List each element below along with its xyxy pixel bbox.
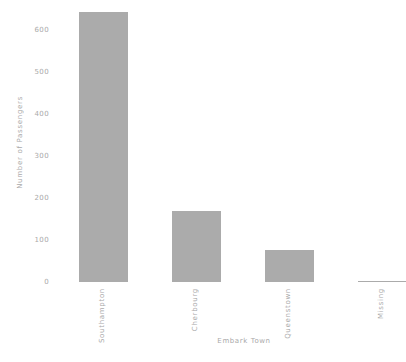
x-axis-title: Embark Town — [203, 338, 285, 345]
y-tick-label-300: 300 — [19, 153, 49, 160]
x-tick-label-queenstown: Queenstown — [285, 288, 292, 339]
x-tick-label-cherbourg: Cherbourg — [192, 288, 199, 331]
y-tick-label-600: 600 — [19, 27, 49, 34]
y-tick-label-0: 0 — [19, 279, 49, 286]
y-tick-label-200: 200 — [19, 195, 49, 202]
x-tick-label-missing: Missing — [378, 288, 385, 319]
y-tick-label-100: 100 — [19, 237, 49, 244]
y-tick-label-400: 400 — [19, 111, 49, 118]
y-tick-label-500: 500 — [19, 69, 49, 76]
bar-chart: Number of Passengers 0100200300400500600… — [0, 0, 406, 362]
x-tick-label-southampton: Southampton — [99, 288, 106, 343]
bar-queenstown — [265, 250, 314, 282]
bar-missing — [358, 281, 406, 282]
bar-cherbourg — [172, 211, 221, 282]
bar-southampton — [79, 12, 128, 282]
